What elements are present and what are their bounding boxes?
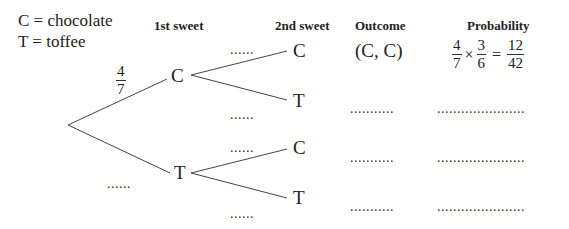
probability-row1: 4 7 × 3 6 = 12 42 xyxy=(452,38,524,71)
header-probability: Probability xyxy=(467,18,530,34)
ct-probability-blank[interactable]: ...... xyxy=(230,107,254,123)
cc-probability-blank[interactable]: ...... xyxy=(230,42,254,58)
legend-toffee: T = toffee xyxy=(18,32,86,52)
branch-t-to-t xyxy=(191,173,287,198)
fraction-denominator: 6 xyxy=(478,55,486,71)
header-outcome: Outcome xyxy=(355,18,406,34)
header-second-sweet: 2nd sweet xyxy=(275,18,330,34)
outcome-row2-blank[interactable]: ........... xyxy=(350,101,394,117)
probability-row2-blank[interactable]: ...................... xyxy=(437,101,525,117)
tt-probability-blank[interactable]: ...... xyxy=(230,206,254,222)
fraction-denominator: 42 xyxy=(508,55,523,71)
branch-root-to-t xyxy=(68,125,170,173)
outcome-row1: (C, C) xyxy=(355,41,403,61)
node-second-tt: T xyxy=(293,188,305,208)
node-second-cc: C xyxy=(293,41,306,61)
outcome-row3-blank[interactable]: ........... xyxy=(350,150,394,166)
node-second-ct: T xyxy=(293,91,305,111)
header-first-sweet: 1st sweet xyxy=(154,18,203,34)
fraction-numerator: 4 xyxy=(116,64,126,81)
outcome-row4-blank[interactable]: ........... xyxy=(350,199,394,215)
probability-row3-blank[interactable]: ...................... xyxy=(437,150,525,166)
fraction-numerator: 4 xyxy=(452,38,462,55)
probability-row4-blank[interactable]: ...................... xyxy=(437,199,525,215)
first-upper-probability: 4 7 xyxy=(116,64,126,97)
node-first-t: T xyxy=(174,163,186,183)
node-second-tc: C xyxy=(293,138,306,158)
equals-sign: = xyxy=(492,46,501,63)
fraction-numerator: 12 xyxy=(507,38,524,55)
legend-chocolate: C = chocolate xyxy=(18,11,113,31)
branch-c-to-t xyxy=(191,75,287,100)
fraction-denominator: 7 xyxy=(117,81,125,97)
fraction-numerator: 3 xyxy=(477,38,487,55)
first-lower-probability-blank[interactable]: ...... xyxy=(107,176,131,192)
node-first-c: C xyxy=(171,66,184,86)
fraction-denominator: 7 xyxy=(453,55,461,71)
tc-probability-blank[interactable]: ...... xyxy=(230,140,254,156)
times-sign: × xyxy=(465,46,474,63)
